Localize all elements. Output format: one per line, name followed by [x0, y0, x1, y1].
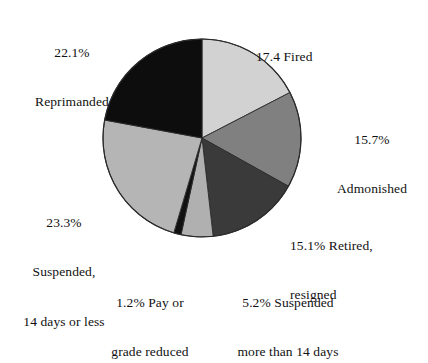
- pie-label-fired: 17.4 Fired: [256, 16, 376, 98]
- pie-label-suspended-14-days-or-less: 23.3% Suspended, 14 days or less: [0, 182, 128, 363]
- pie-label-fired-text: 17.4 Fired: [256, 49, 376, 65]
- pie-label-suspended-more-line1: 5.2% Suspended: [208, 295, 368, 311]
- pie-label-admonished-name: Admonished: [318, 181, 426, 197]
- pie-label-reprimanded-name: Reprimanded: [6, 94, 138, 110]
- pie-label-suspended-less-line2: Suspended,: [0, 264, 128, 280]
- pie-label-suspended-more-line2: more than 14 days: [208, 344, 368, 360]
- pie-label-suspended-less-line1: 23.3%: [0, 215, 128, 231]
- pie-label-reprimanded: 22.1% Reprimanded: [6, 12, 138, 144]
- pie-label-admonished-value: 15.7%: [318, 132, 426, 148]
- pie-label-retired-value: 15.1% Retired,: [290, 238, 428, 254]
- pie-label-suspended-less-line3: 14 days or less: [0, 314, 128, 330]
- pie-label-suspended-more-than-14-days: 5.2% Suspended more than 14 days: [208, 262, 368, 363]
- pie-label-reprimanded-value: 22.1%: [6, 45, 138, 61]
